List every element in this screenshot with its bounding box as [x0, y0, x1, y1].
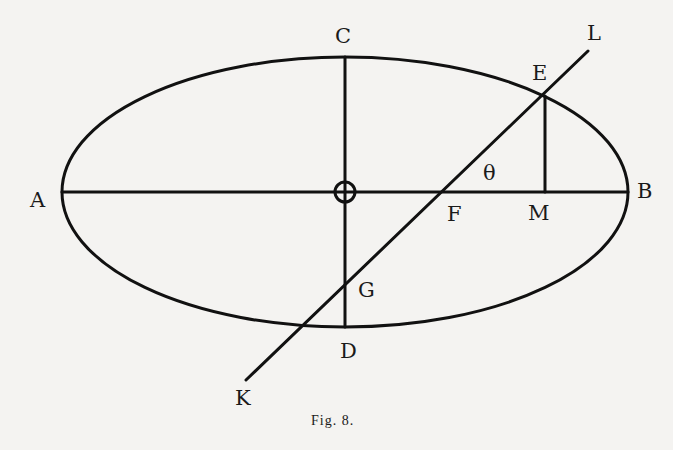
label-theta: θ [483, 161, 496, 185]
label-B: B [637, 179, 652, 203]
label-C: C [335, 24, 351, 48]
label-K: K [235, 386, 251, 410]
ellipse-diagram: A B C D E F G K L M θ Fig. 8. [0, 0, 673, 450]
figure-caption: Fig. 8. [311, 413, 354, 428]
label-M: M [528, 201, 550, 225]
label-F: F [447, 202, 462, 226]
label-G: G [358, 278, 375, 302]
label-L: L [587, 21, 601, 45]
label-D: D [340, 339, 357, 363]
label-A: A [29, 188, 46, 212]
label-E: E [532, 61, 547, 85]
